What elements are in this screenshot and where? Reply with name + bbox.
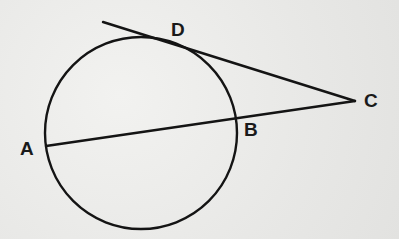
secant-line-AC bbox=[46, 101, 355, 146]
point-label-d: D bbox=[171, 20, 185, 39]
point-label-b: B bbox=[244, 120, 258, 139]
point-label-a: A bbox=[20, 139, 34, 158]
tangent-line-CD bbox=[103, 22, 355, 101]
geometry-figure bbox=[0, 0, 399, 239]
point-label-c: C bbox=[364, 91, 378, 110]
diagram-canvas: D A B C bbox=[0, 0, 399, 239]
